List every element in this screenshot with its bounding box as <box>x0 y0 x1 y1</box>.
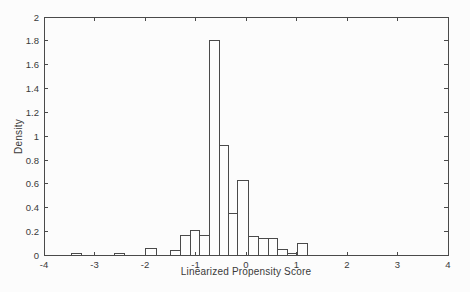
y-tick-label: 1.2 <box>26 107 39 118</box>
histogram-bar <box>277 250 287 256</box>
histogram-bar <box>219 146 229 256</box>
histogram-bar <box>229 214 238 256</box>
histogram-figure: -4-3-2-10123400.20.40.60.811.21.41.61.82… <box>0 0 470 292</box>
y-tick-label: 1.4 <box>26 83 39 94</box>
y-tick-label: 2 <box>34 12 39 23</box>
histogram-bar <box>258 239 268 256</box>
histogram-bar <box>170 250 180 255</box>
histogram-bar <box>298 244 308 256</box>
histogram-bar <box>209 41 219 256</box>
y-tick-label: 1.6 <box>26 59 39 70</box>
y-axis-label: Density <box>13 97 24 177</box>
y-tick-label: 0.8 <box>26 155 39 166</box>
x-axis-label: Linearized Propensity Score <box>0 266 470 277</box>
y-tick-label: 0.2 <box>26 226 39 237</box>
y-tick-label: 0 <box>34 250 39 261</box>
histogram-bar <box>248 236 258 255</box>
histogram-bar <box>180 235 190 255</box>
y-tick-label: 0.6 <box>26 178 39 189</box>
y-tick-label: 0.4 <box>26 202 39 213</box>
histogram-bar <box>238 180 248 255</box>
histogram-plot: -4-3-2-10123400.20.40.60.811.21.41.61.82 <box>0 0 470 292</box>
histogram-bar <box>268 239 277 256</box>
y-tick-label: 1 <box>34 131 39 142</box>
histogram-bar <box>190 231 199 256</box>
histogram-bar <box>200 235 210 255</box>
histogram-bar <box>145 248 156 255</box>
y-tick-label: 1.8 <box>26 35 39 46</box>
